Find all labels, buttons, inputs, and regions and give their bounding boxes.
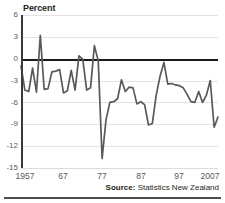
x-tick-label: 67	[58, 172, 67, 181]
x-tick-label: 2007	[201, 172, 220, 181]
source-label: Source:	[106, 183, 136, 192]
y-tick-label: -6	[0, 99, 18, 107]
chart-container: Percent 6 3 0 -3 -6 -9 -12 -15 1957 67 7…	[0, 0, 225, 203]
bottom-divider	[4, 197, 221, 199]
y-tick-label: -9	[0, 120, 18, 128]
y-tick-label: 6	[0, 11, 18, 19]
x-tick-label: 1957	[16, 172, 35, 181]
y-tick-label: -12	[0, 142, 18, 150]
x-tick-label: 77	[97, 172, 106, 181]
source-note: Source: Statistics New Zealand	[106, 183, 219, 193]
y-tick-label: -3	[0, 77, 18, 85]
y-tick-label: 3	[0, 33, 18, 41]
x-tick-label: 87	[136, 172, 145, 181]
source-text: Statistics New Zealand	[135, 183, 219, 192]
y-tick-label: 0	[0, 55, 18, 63]
x-tick-label: 97	[174, 172, 183, 181]
